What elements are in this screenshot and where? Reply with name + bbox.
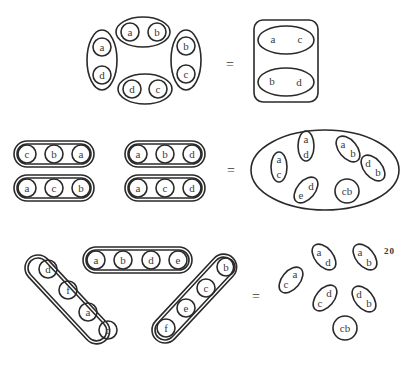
element-label: a (136, 182, 141, 194)
element-label: e (299, 189, 304, 201)
element-label: c (284, 278, 289, 290)
element-label: c (204, 282, 209, 294)
element-label: c (184, 68, 189, 80)
element-label: c (52, 182, 57, 194)
equals-sign: = (252, 289, 260, 304)
element-label: b (183, 40, 189, 52)
element-label: d (296, 76, 302, 88)
element-label: e (176, 254, 181, 266)
element-label: d (148, 254, 154, 266)
element-label: c (106, 324, 111, 336)
element-label: d (365, 157, 371, 169)
element-label: a (304, 133, 309, 145)
element-label: a (86, 306, 91, 318)
row3-left-figure: d f a c a b d e b c e f (20, 247, 242, 349)
element-label: b (366, 256, 372, 268)
row1-left-figure: a b a d b c d c (87, 17, 201, 104)
element-label: b (78, 182, 84, 194)
element-label: c (25, 148, 30, 160)
row2-left-figure: c b a a b d a c b a c d (14, 141, 205, 201)
row2-right-figure: a c a d a b d b e d cb (251, 130, 399, 210)
element-label: a (25, 182, 30, 194)
element-label: b (350, 147, 356, 159)
element-label: c (277, 168, 282, 180)
element-label: c (156, 83, 161, 95)
element-label: e (184, 302, 189, 314)
element-label: a (341, 138, 346, 150)
element-label: cb (342, 185, 353, 197)
element-label: b (366, 297, 372, 309)
element-label: a (277, 153, 282, 165)
element-label: f (66, 284, 70, 296)
element-label: d (325, 256, 331, 268)
element-label: d (189, 148, 195, 160)
element-label: d (99, 69, 105, 81)
element-label: c (163, 182, 168, 194)
element-label: a (136, 148, 141, 160)
equals-sign: = (226, 57, 234, 72)
element-label: d (308, 180, 314, 192)
element-label: d (189, 182, 195, 194)
element-label: c (318, 297, 323, 309)
row3-right-figure: c a a d a b c d d b cb (274, 240, 381, 340)
element-label: b (51, 148, 57, 160)
equals-sign: = (227, 163, 235, 178)
element-label: a (317, 246, 322, 258)
element-label: a (358, 246, 363, 258)
element-label: d (356, 288, 362, 300)
element-label: b (223, 261, 229, 273)
element-label: d (303, 148, 309, 160)
element-label: b (375, 166, 381, 178)
element-label: a (79, 148, 84, 160)
set-partition-diagram: a b a d b c d c = a c b d c b a a b (0, 0, 419, 366)
element-label: a (293, 268, 298, 280)
element-label: a (128, 26, 133, 38)
element-label: d (129, 83, 135, 95)
element-label: b (162, 148, 168, 160)
element-label: b (120, 254, 126, 266)
element-label: d (326, 287, 332, 299)
element-label: b (154, 26, 160, 38)
element-label: a (100, 41, 105, 53)
element-label: d (45, 263, 51, 275)
row1-right-figure: a c b d (254, 20, 318, 102)
element-label: c (298, 33, 303, 45)
element-label: a (271, 33, 276, 45)
page-number: 20 (384, 246, 395, 256)
element-label: f (164, 322, 168, 334)
element-label: a (94, 254, 99, 266)
element-label: cb (340, 322, 351, 334)
element-label: b (269, 75, 275, 87)
